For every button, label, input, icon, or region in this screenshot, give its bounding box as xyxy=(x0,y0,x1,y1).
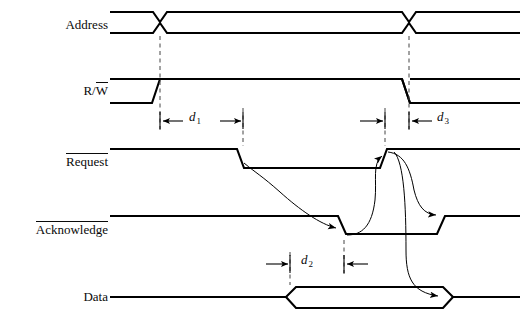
waveform-request xyxy=(110,149,520,168)
waveform-data xyxy=(110,287,520,308)
delay-arrows-d2 xyxy=(266,255,368,273)
causality-request-rise-to-ack-rise xyxy=(388,152,436,215)
timing-diagram: Address R/W Request Acknowledge Data d1 … xyxy=(0,0,523,318)
waveform-read-write xyxy=(110,79,520,103)
timing-waveforms xyxy=(0,0,523,318)
delay-arrows-d3 xyxy=(360,112,478,129)
causality-request-fall-to-ack-fall xyxy=(244,163,336,228)
causality-request-rise-to-data-end xyxy=(394,152,438,296)
delay-arrows-d1 xyxy=(160,112,243,129)
waveform-address xyxy=(110,12,520,33)
reference-dashed-lines xyxy=(160,36,409,285)
